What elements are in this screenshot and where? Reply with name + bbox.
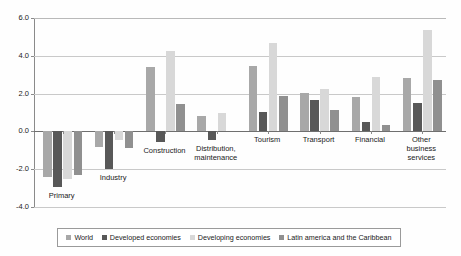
bar bbox=[279, 96, 288, 131]
bar bbox=[423, 30, 432, 131]
category-label: Primary bbox=[28, 191, 95, 200]
bar bbox=[63, 131, 72, 178]
y-tick-label: 0.0 bbox=[19, 128, 29, 136]
legend-label: World bbox=[74, 234, 93, 241]
bar bbox=[53, 131, 62, 187]
y-tick-mark bbox=[31, 131, 34, 132]
chart-legend: WorldDeveloped economiesDeveloping econo… bbox=[57, 228, 401, 247]
bar bbox=[166, 51, 175, 131]
legend-swatch-icon bbox=[102, 235, 107, 240]
y-tick-mark bbox=[31, 56, 34, 57]
x-tick-mark bbox=[165, 131, 166, 134]
y-tick-mark bbox=[31, 18, 34, 19]
bar-group bbox=[300, 18, 339, 207]
x-tick-mark bbox=[217, 131, 218, 134]
bar bbox=[176, 104, 185, 131]
bar bbox=[310, 100, 319, 131]
bar bbox=[95, 131, 104, 146]
category-label: Other business services bbox=[388, 135, 455, 162]
bar bbox=[259, 112, 268, 132]
bar-group bbox=[352, 18, 391, 207]
bar bbox=[156, 131, 165, 141]
bar bbox=[197, 116, 206, 131]
legend-label: Developed economies bbox=[110, 234, 181, 241]
legend-item[interactable]: Developed economies bbox=[102, 234, 181, 241]
category-label: Distribution, maintenance bbox=[182, 144, 249, 162]
bar bbox=[403, 78, 412, 132]
legend-swatch-icon bbox=[190, 235, 195, 240]
bar bbox=[74, 131, 83, 174]
bar bbox=[433, 80, 442, 131]
y-tick-mark bbox=[31, 169, 34, 170]
legend-label: Latin america and the Caribbean bbox=[287, 234, 391, 241]
bar bbox=[300, 93, 309, 132]
bar-group bbox=[146, 18, 185, 207]
x-tick-mark bbox=[268, 131, 269, 134]
x-tick-mark bbox=[63, 131, 64, 134]
y-tick-mark bbox=[31, 207, 34, 208]
y-tick-label: 4.0 bbox=[19, 52, 29, 60]
bar-group bbox=[43, 18, 82, 207]
bar bbox=[413, 103, 422, 131]
x-tick-mark bbox=[422, 131, 423, 134]
x-tick-mark bbox=[320, 131, 321, 134]
y-tick-label: 6.0 bbox=[19, 14, 29, 22]
legend-item[interactable]: Latin america and the Caribbean bbox=[279, 234, 391, 241]
legend-item[interactable]: Developing economies bbox=[190, 234, 271, 241]
bar bbox=[249, 66, 258, 131]
y-tick-label: 2.0 bbox=[19, 90, 29, 98]
category-label: Industry bbox=[79, 173, 146, 182]
bar bbox=[208, 131, 217, 140]
bar bbox=[269, 43, 278, 132]
plot-area: 6.04.02.00.0-2.0-4.0 PrimaryIndustryCons… bbox=[34, 18, 446, 207]
bar bbox=[382, 125, 391, 132]
legend-item[interactable]: World bbox=[66, 234, 93, 241]
x-tick-mark bbox=[371, 131, 372, 134]
bar bbox=[146, 67, 155, 131]
x-tick-mark bbox=[114, 131, 115, 134]
bar bbox=[115, 131, 124, 140]
bar-group bbox=[197, 18, 236, 207]
legend-label: Developing economies bbox=[198, 234, 271, 241]
bar-group bbox=[249, 18, 288, 207]
bar bbox=[330, 110, 339, 132]
y-tick-mark bbox=[31, 94, 34, 95]
bar bbox=[362, 122, 371, 131]
gridline--4.0 bbox=[34, 207, 446, 208]
bar bbox=[43, 131, 52, 176]
y-tick-label: -2.0 bbox=[16, 165, 29, 173]
bar bbox=[352, 97, 361, 131]
bar bbox=[372, 77, 381, 132]
legend-swatch-icon bbox=[279, 235, 284, 240]
bar bbox=[218, 113, 227, 132]
bar bbox=[320, 89, 329, 132]
bar-chart-figure: 6.04.02.00.0-2.0-4.0 PrimaryIndustryCons… bbox=[0, 0, 461, 256]
y-tick-label: -4.0 bbox=[16, 203, 29, 211]
bar bbox=[105, 131, 114, 169]
bar-group bbox=[403, 18, 442, 207]
legend-swatch-icon bbox=[66, 235, 71, 240]
